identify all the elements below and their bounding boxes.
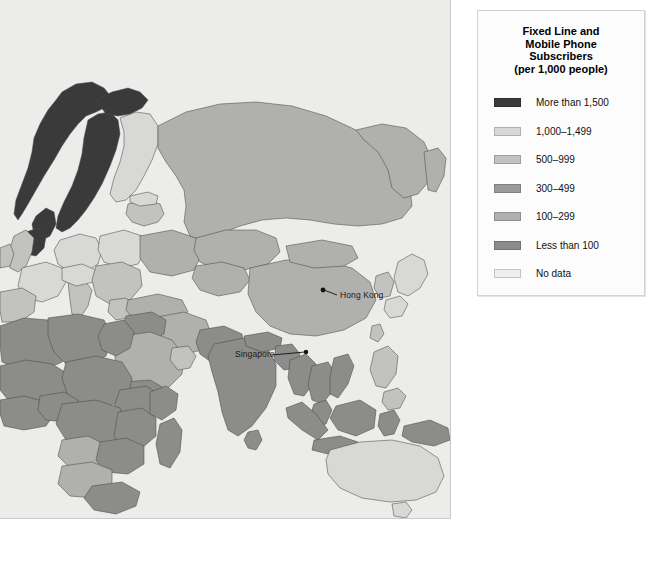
legend-title: Fixed Line and Mobile Phone Subscribers … bbox=[478, 11, 644, 75]
legend-item[interactable]: More than 1,500 bbox=[494, 88, 644, 117]
legend-title-line-3: Subscribers bbox=[486, 50, 636, 63]
map-legend: Fixed Line and Mobile Phone Subscribers … bbox=[477, 10, 645, 296]
legend-item[interactable]: 1,000–1,499 bbox=[494, 117, 644, 146]
legend-swatch bbox=[494, 184, 521, 193]
map-label-singapore: Singapore bbox=[235, 349, 275, 359]
legend-item[interactable]: No data bbox=[494, 259, 644, 288]
legend-swatch bbox=[494, 241, 521, 250]
legend-swatch bbox=[494, 155, 521, 164]
map-panel[interactable]: .c{stroke:#4a4a4a;stroke-width:.55;strok… bbox=[0, 0, 451, 519]
legend-item-list: More than 1,500 1,000–1,499 500–999 300–… bbox=[478, 88, 644, 288]
legend-item-label: 300–499 bbox=[536, 183, 575, 194]
legend-title-line-1: Fixed Line and bbox=[486, 25, 636, 38]
legend-swatch bbox=[494, 269, 521, 278]
legend-title-line-4: (per 1,000 people) bbox=[486, 63, 636, 76]
legend-item[interactable]: Less than 100 bbox=[494, 231, 644, 260]
legend-item-label: No data bbox=[536, 268, 571, 279]
legend-swatch bbox=[494, 98, 521, 107]
legend-item-label: Less than 100 bbox=[536, 240, 599, 251]
map-label-hong-kong: Hong Kong bbox=[340, 290, 383, 300]
legend-item-label: More than 1,500 bbox=[536, 97, 609, 108]
legend-swatch bbox=[494, 127, 521, 136]
legend-title-line-2: Mobile Phone bbox=[486, 38, 636, 51]
legend-item-label: 1,000–1,499 bbox=[536, 126, 592, 137]
legend-item[interactable]: 300–499 bbox=[494, 174, 644, 203]
legend-item[interactable]: 500–999 bbox=[494, 145, 644, 174]
legend-item-label: 100–299 bbox=[536, 211, 575, 222]
legend-swatch bbox=[494, 212, 521, 221]
legend-item[interactable]: 100–299 bbox=[494, 202, 644, 231]
legend-item-label: 500–999 bbox=[536, 154, 575, 165]
world-map-graphic: .c{stroke:#4a4a4a;stroke-width:.55;strok… bbox=[0, 0, 451, 519]
